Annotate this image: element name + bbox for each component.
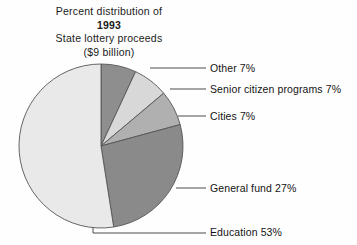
pie-slice-education <box>19 64 114 228</box>
pie-chart-svg <box>0 0 357 245</box>
pie-chart: Other 7% Senior citizen programs 7% Citi… <box>0 0 357 245</box>
slice-label-general-fund: General fund 27% <box>210 182 296 194</box>
slice-label-other: Other 7% <box>210 62 255 74</box>
leader-line-education <box>93 228 206 233</box>
pie-slice-group <box>19 64 183 228</box>
chart-page: Percent distribution of 1993 State lotte… <box>0 0 357 245</box>
slice-label-cities: Cities 7% <box>210 110 255 122</box>
slice-label-education: Education 53% <box>210 226 282 238</box>
slice-label-senior-citizen-programs: Senior citizen programs 7% <box>210 83 341 95</box>
